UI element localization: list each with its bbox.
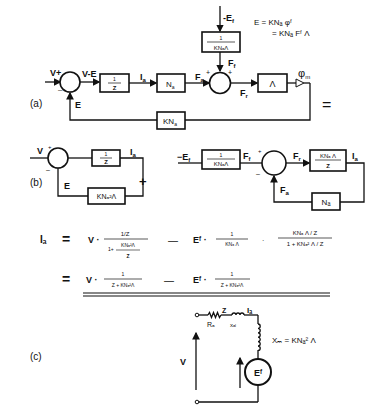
svg-text:Eᶠ ·: Eᶠ ·: [193, 235, 207, 245]
part-a-label: (a): [30, 98, 42, 109]
svg-text:KNₐΛ: KNₐΛ: [214, 45, 229, 51]
svg-text:KNₐ²Λ: KNₐ²Λ: [121, 242, 135, 248]
svg-text:Nₐ: Nₐ: [322, 198, 332, 207]
svg-text:Rₐ: Rₐ: [207, 321, 215, 328]
svg-text:Ia: Ia: [352, 151, 359, 162]
svg-text:KNₐ Λ: KNₐ Λ: [320, 153, 336, 159]
v-minus-e-label: V-E: [82, 69, 97, 79]
svg-text:−Ef: −Ef: [177, 152, 191, 163]
ff-label: Ff: [228, 58, 237, 69]
svg-text:Iₐ: Iₐ: [247, 306, 252, 315]
svg-text:V: V: [37, 146, 43, 156]
inductor-xal: [232, 313, 244, 315]
svg-text:KNₐ²Λ: KNₐ²Λ: [97, 193, 117, 200]
svg-text:Z: Z: [222, 307, 227, 314]
part-b-diagram: (b) V + – 1 Z Ia KNₐ²Λ E + −Ef 1 KNₐΛ Ff…: [30, 144, 364, 210]
svg-text:1: 1: [220, 152, 223, 158]
svg-text:+: +: [206, 69, 210, 76]
svg-text:—: —: [164, 275, 174, 286]
svg-text:1 + KNₐ² Λ / Z: 1 + KNₐ² Λ / Z: [287, 241, 324, 247]
inductor-xm: [258, 324, 260, 350]
svg-text:+: +: [48, 144, 52, 150]
svg-text:—: —: [168, 235, 178, 246]
svg-text:=: =: [62, 231, 70, 247]
svg-text:Z: Z: [126, 253, 129, 259]
transfer-equations: Iₐ = V · 1/Z 1+ KNₐ²Λ Z — Eᶠ · 1 KNₐ Λ ·…: [40, 230, 332, 296]
svg-text:·: ·: [262, 237, 264, 244]
summing-junction-1: [60, 72, 80, 92]
svg-text:–: –: [256, 170, 260, 177]
e-equation-line2: = KNₐ Fᶠ Λ: [272, 29, 310, 38]
armature-reaction-block-diagram: (a) V+ – V-E 1 Z Ia Na Fa + + -Ef 1 KNₐΛ: [0, 0, 371, 409]
svg-text:Z: Z: [104, 159, 108, 165]
svg-text:+: +: [258, 148, 262, 154]
svg-text:V ·: V ·: [88, 235, 100, 245]
svg-text:Z + KNₐ²Λ: Z + KNₐ²Λ: [112, 282, 135, 288]
phi-m-label: φm: [298, 67, 310, 80]
svg-text:Ia: Ia: [130, 147, 137, 158]
svg-text:Ff: Ff: [243, 151, 252, 162]
svg-text:1+: 1+: [108, 246, 114, 252]
svg-text:KNₐ Λ: KNₐ Λ: [225, 241, 239, 247]
b-right-summing-junction: [262, 151, 286, 175]
e-equation-line1: E = KNₐ φᶠ: [254, 18, 292, 27]
neg-ef-label: -Ef: [223, 13, 235, 24]
part-b-label: (b): [30, 177, 42, 188]
svg-text:V: V: [180, 357, 186, 367]
svg-text:1: 1: [122, 271, 125, 277]
svg-text:1: 1: [231, 231, 234, 237]
part-a-diagram: (a) V+ – V-E 1 Z Ia Na Fa + + -Ef 1 KNₐΛ: [30, 6, 331, 129]
b-left-summing-junction: [48, 148, 68, 168]
svg-text:Fa: Fa: [280, 185, 290, 196]
fa-label: Fa: [195, 72, 205, 83]
svg-text:1: 1: [105, 151, 108, 157]
svg-text:=: =: [62, 271, 70, 287]
svg-text:Eᶠ ·: Eᶠ ·: [193, 275, 207, 285]
svg-text:+: +: [228, 69, 232, 76]
svg-text:1: 1: [220, 35, 223, 41]
svg-text:E: E: [64, 181, 70, 191]
part-c-label: (c): [30, 351, 42, 362]
fr-label: Fr: [240, 88, 249, 99]
svg-text:Fr: Fr: [293, 151, 302, 162]
summing-junction-2: [210, 73, 231, 94]
svg-text:xₐₗ: xₐₗ: [230, 322, 236, 328]
plus-sign: +: [139, 174, 147, 189]
svg-text:Z: Z: [113, 85, 117, 91]
feedback-e-label: E: [75, 100, 81, 110]
terminal-top[interactable]: [195, 313, 199, 317]
output-arrow-hollow: [296, 79, 304, 87]
svg-text:1: 1: [113, 76, 116, 82]
resistor-ra: [208, 313, 221, 318]
svg-text:Z + KNₐ²Λ: Z + KNₐ²Λ: [221, 282, 244, 288]
svg-text:KNₐ Λ / Z: KNₐ Λ / Z: [293, 230, 318, 236]
svg-text:KNₐΛ: KNₐΛ: [214, 161, 229, 167]
svg-text:Λ: Λ: [269, 79, 275, 89]
input-v-plus: V+: [50, 68, 61, 78]
svg-text:1/Z: 1/Z: [121, 231, 130, 237]
svg-text:Xₘ = KNₐ² Λ: Xₘ = KNₐ² Λ: [272, 336, 316, 345]
part-c-equivalent-circuit: (c) Z Iₐ Rₐ xₐₗ Xₘ = KNₐ² Λ Eᶠ V: [30, 306, 316, 404]
eq-lhs: Iₐ: [40, 234, 47, 245]
svg-text:1: 1: [231, 271, 234, 277]
svg-text:–: –: [46, 166, 50, 173]
ia-label: Ia: [140, 72, 147, 83]
svg-text:V ·: V ·: [86, 275, 98, 285]
svg-text:Eᶠ: Eᶠ: [254, 368, 263, 378]
equals-sign: =: [322, 96, 331, 113]
terminal-bottom[interactable]: [195, 400, 199, 404]
svg-text:Z: Z: [326, 163, 330, 169]
